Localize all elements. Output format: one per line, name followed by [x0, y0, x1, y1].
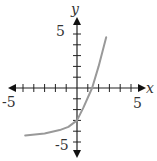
x-axis-label: x	[146, 80, 154, 96]
y-min-label: -5	[55, 137, 69, 153]
y-axis-label: y	[70, 1, 80, 17]
x-min-label: -5	[2, 94, 16, 110]
x-max-label: 5	[133, 95, 142, 111]
y-max-label: 5	[56, 23, 65, 39]
graph: x y -5 5 5 -5	[0, 0, 157, 161]
